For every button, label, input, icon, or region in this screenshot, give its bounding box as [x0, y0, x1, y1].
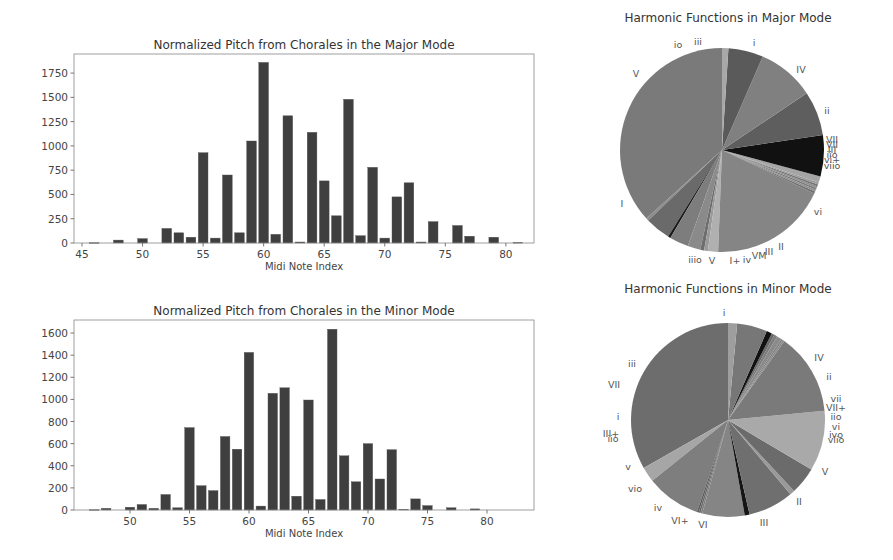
- pie-slice-label: viio: [824, 160, 841, 171]
- bar: [375, 479, 385, 510]
- pie-slice-label: iv: [743, 254, 752, 265]
- bar: [423, 506, 433, 510]
- bar: [368, 167, 378, 243]
- pie-slice-label: V: [709, 255, 716, 266]
- bar: [280, 388, 290, 510]
- y-tick-label: 250: [48, 213, 68, 225]
- bar: [137, 505, 147, 511]
- pie-slice-label: iiio: [688, 254, 702, 265]
- y-tick-label: 1000: [41, 393, 68, 405]
- minor-harmonic-pie-chart: Harmonic Functions in Minor Mode iIViivi…: [603, 282, 846, 530]
- major-pitch-bar-chart: Normalized Pitch from Chorales in the Ma…: [41, 38, 534, 272]
- minor-y-ticks: 02004006008001000120014001600: [41, 327, 74, 516]
- pie-slice-label: vi: [814, 206, 822, 217]
- y-tick-label: 600: [48, 438, 68, 450]
- pie-slice-label: iii: [694, 36, 702, 47]
- y-tick-label: 1250: [41, 116, 68, 128]
- bar: [220, 437, 230, 511]
- bar: [351, 482, 361, 510]
- x-tick-label: 70: [361, 515, 374, 527]
- major-x-ticks: 4550556065707580: [75, 243, 512, 260]
- bar: [453, 226, 463, 244]
- bar: [411, 499, 421, 510]
- bar: [319, 181, 329, 243]
- x-tick-label: 50: [136, 248, 149, 260]
- bar: [307, 132, 317, 243]
- x-tick-label: 65: [302, 515, 315, 527]
- bar: [198, 153, 208, 243]
- x-tick-label: 45: [75, 248, 88, 260]
- x-tick-label: 75: [439, 248, 452, 260]
- bar: [465, 236, 475, 243]
- y-tick-label: 500: [48, 188, 68, 200]
- bar: [268, 393, 278, 510]
- pie-slice-label: IV: [796, 64, 806, 75]
- major-pie-slices: [620, 48, 824, 252]
- x-tick-label: 55: [183, 515, 196, 527]
- pie-slice-label: II: [778, 241, 784, 252]
- figure-canvas: Normalized Pitch from Chorales in the Ma…: [0, 0, 893, 560]
- x-tick-label: 60: [257, 248, 270, 260]
- minor-pie-title: Harmonic Functions in Minor Mode: [624, 282, 831, 296]
- x-tick-label: 50: [123, 515, 136, 527]
- minor-pitch-bar-chart: Normalized Pitch from Chorales in the Mi…: [41, 304, 534, 539]
- major-harmonic-pie-chart: Harmonic Functions in Major Mode IiiioVI…: [620, 11, 841, 266]
- pie-slice-label: io: [674, 39, 683, 50]
- bar: [428, 222, 438, 243]
- bar: [114, 240, 124, 243]
- pie-slice-label: VII: [608, 379, 620, 390]
- bar: [328, 329, 338, 510]
- bar: [162, 228, 172, 243]
- bar: [344, 99, 354, 243]
- y-tick-label: 200: [48, 482, 68, 494]
- minor-x-label: Midi Note Index: [265, 528, 343, 539]
- bar: [339, 456, 349, 510]
- bar: [363, 444, 373, 510]
- pie-slice-label: I+: [730, 255, 741, 266]
- y-tick-label: 0: [61, 237, 68, 249]
- bar: [125, 507, 135, 510]
- bar: [210, 238, 220, 243]
- bar: [489, 237, 499, 243]
- pie-slice-label: i: [617, 411, 620, 422]
- major-plot-frame: [74, 54, 534, 243]
- bar: [247, 141, 257, 243]
- pie-slice-label: IV: [814, 352, 824, 363]
- bar: [209, 491, 219, 510]
- bar: [197, 486, 207, 510]
- pie-slice-label: VI+: [671, 515, 688, 526]
- bar: [404, 183, 414, 243]
- y-tick-label: 1200: [41, 371, 68, 383]
- x-tick-label: 75: [421, 515, 434, 527]
- pie-slice-label: III: [765, 246, 773, 257]
- y-tick-label: 1400: [41, 349, 68, 361]
- y-tick-label: 800: [48, 416, 68, 428]
- bar: [283, 116, 293, 243]
- bar: [316, 500, 326, 511]
- pie-slice-label: ii: [824, 105, 829, 116]
- bar: [387, 450, 397, 510]
- pie-slice-label: viio: [828, 434, 845, 445]
- pie-slice-label: iv: [654, 502, 663, 513]
- major-bars: [89, 62, 523, 243]
- minor-x-ticks: 50556065707580: [123, 510, 493, 527]
- minor-pie-slices: [631, 323, 825, 517]
- pie-slice-label: v: [625, 461, 631, 472]
- pie-slice-label: vio: [628, 483, 642, 494]
- minor-bar-title: Normalized Pitch from Chorales in the Mi…: [153, 304, 454, 318]
- bar: [304, 400, 314, 510]
- y-tick-label: 1750: [41, 67, 68, 79]
- major-y-ticks: 02505007501000125015001750: [41, 67, 74, 249]
- x-tick-label: 65: [318, 248, 331, 260]
- pie-slice-label: II: [796, 496, 802, 507]
- bar: [292, 496, 302, 510]
- pie-slice-label: V: [822, 466, 829, 477]
- y-tick-label: 0: [61, 504, 68, 516]
- bar: [186, 237, 196, 243]
- x-tick-label: 70: [378, 248, 391, 260]
- x-tick-label: 55: [196, 248, 209, 260]
- bar: [174, 233, 184, 243]
- bar: [161, 495, 171, 511]
- x-tick-label: 60: [242, 515, 255, 527]
- major-x-label: Midi Note Index: [265, 261, 343, 272]
